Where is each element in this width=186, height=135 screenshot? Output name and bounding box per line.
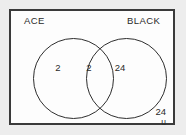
venn-diagram-screenshot: ACE BLACK 2 2 24 24 u (0, 0, 186, 135)
set-label-black: BLACK (127, 15, 160, 26)
region-count-black-only: 24 (106, 62, 134, 73)
set-label-ace: ACE (24, 15, 45, 26)
region-count-ace-only: 2 (44, 62, 72, 73)
region-count-intersection: 2 (75, 62, 103, 73)
region-count-outside: 24 (140, 106, 166, 117)
universal-set-symbol: u (140, 117, 166, 127)
